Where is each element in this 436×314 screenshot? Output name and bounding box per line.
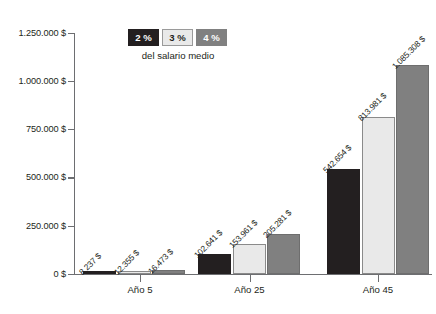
legend-caption: del salario medio xyxy=(142,50,215,61)
y-tick-mark xyxy=(68,177,74,178)
legend-item-3pct: 3 % xyxy=(162,29,193,46)
legend-item-4pct: 4 % xyxy=(196,29,227,46)
bar xyxy=(233,244,266,274)
y-tick-mark xyxy=(68,33,74,34)
bar xyxy=(327,169,360,274)
y-tick-label: 750.000 $ xyxy=(26,124,66,134)
y-tick-label: 250.000 $ xyxy=(26,221,66,231)
y-tick-mark xyxy=(68,81,74,82)
x-tick-mark xyxy=(378,275,379,282)
x-tick-mark xyxy=(250,275,251,282)
y-tick-label: 0 $ xyxy=(54,269,66,279)
y-tick-label: 1.250.000 $ xyxy=(19,28,66,38)
bar-chart: 0 $250.000 $500.000 $750.000 $1.000.000 … xyxy=(0,0,436,314)
x-tick-mark xyxy=(140,275,141,282)
y-tick-mark xyxy=(68,226,74,227)
y-tick-mark xyxy=(68,274,74,275)
legend: 2 %3 %4 % xyxy=(128,29,227,46)
x-category-label: Año 45 xyxy=(363,284,393,295)
x-category-label: Año 5 xyxy=(127,284,152,295)
y-tick-label: 500.000 $ xyxy=(26,172,66,182)
legend-item-2pct: 2 % xyxy=(128,29,159,46)
y-axis-line xyxy=(74,33,75,274)
bar xyxy=(396,65,429,274)
y-tick-mark xyxy=(68,129,74,130)
bar xyxy=(198,254,231,274)
bar xyxy=(267,234,300,274)
bar xyxy=(362,117,395,274)
x-category-label: Año 25 xyxy=(234,284,264,295)
y-tick-label: 1.000.000 $ xyxy=(19,76,66,86)
